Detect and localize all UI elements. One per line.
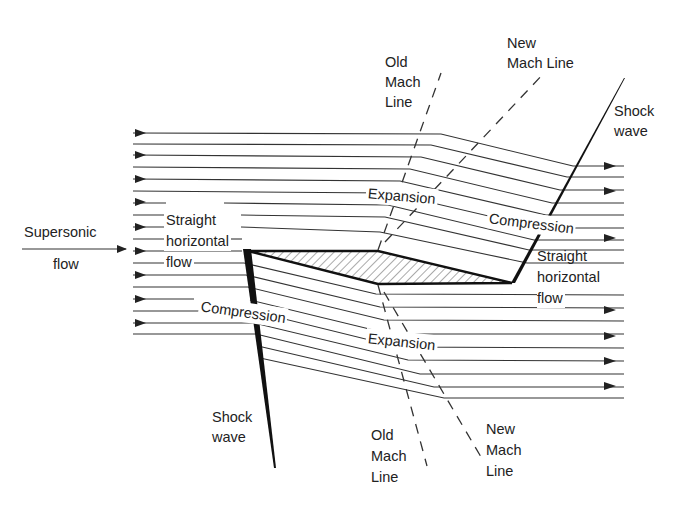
upper-right-arrowheads [604, 162, 616, 242]
label-old-mach-top-3: Line [385, 92, 412, 112]
label-new-mach-bottom-2: Mach [486, 440, 521, 460]
label-new-mach-top-1: New [507, 33, 536, 53]
label-old-mach-bottom-3: Line [371, 467, 398, 487]
label-shock-top-1: Shock [614, 101, 654, 121]
label-horizontal-right: horizontal [537, 267, 600, 287]
label-old-mach-top-1: Old [385, 52, 408, 72]
label-horizontal-left: horizontal [164, 231, 231, 251]
label-straight-right: Straight [537, 246, 587, 266]
label-flow-right: flow [537, 288, 565, 308]
label-shock-top-2: wave [614, 121, 648, 141]
label-old-mach-top-2: Mach [385, 72, 420, 92]
label-new-mach-bottom-1: New [486, 419, 515, 439]
label-old-mach-bottom-2: Mach [371, 446, 406, 466]
leading-shock-wave [243, 249, 276, 468]
label-new-mach-top-2: Mach Line [507, 53, 574, 73]
label-flow-left: flow [164, 252, 194, 272]
label-new-mach-bottom-3: Line [486, 461, 513, 481]
label-old-mach-bottom-1: Old [371, 425, 394, 445]
airfoil [248, 251, 512, 284]
label-supersonic: Supersonic [24, 222, 97, 242]
label-shock-bottom-1: Shock [212, 407, 252, 427]
label-shock-bottom-2: wave [212, 427, 246, 447]
label-straight-left: Straight [164, 210, 218, 230]
label-flow-incoming: flow [53, 254, 79, 274]
